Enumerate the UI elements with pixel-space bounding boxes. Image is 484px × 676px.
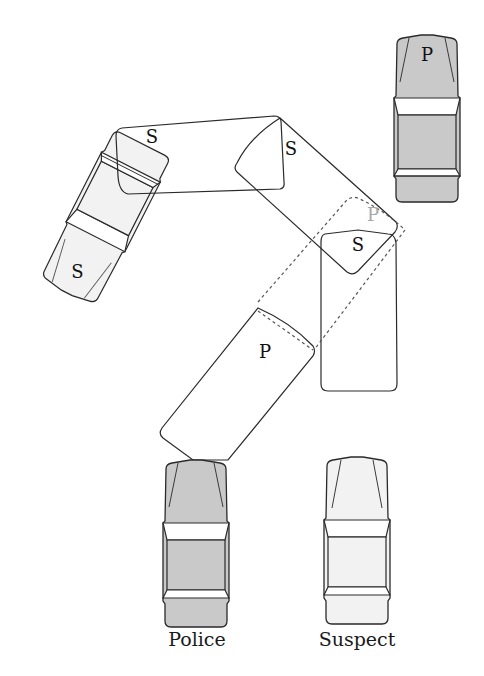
police-ghost-label: P bbox=[367, 204, 379, 225]
police-ghost-box: P bbox=[258, 197, 405, 350]
suspect-path-right: S bbox=[321, 230, 397, 391]
police-path-diagonal: P bbox=[160, 308, 314, 460]
suspect-spun-label: S bbox=[71, 261, 83, 282]
suspect-path-diagonal: S bbox=[235, 118, 397, 274]
parked-police-label: P bbox=[421, 44, 433, 65]
police-path-label: P bbox=[259, 341, 271, 362]
suspect-path-diagonal-label: S bbox=[285, 138, 297, 159]
police-car bbox=[163, 460, 229, 627]
pursuit-diagram: P S S S S P P bbox=[0, 0, 484, 676]
suspect-path-right-label: S bbox=[352, 234, 364, 255]
police-legend-label: Police bbox=[168, 628, 226, 650]
suspect-spun-car: S bbox=[37, 129, 172, 308]
suspect-path-top-label: S bbox=[146, 126, 158, 147]
parked-police-car: P bbox=[394, 35, 460, 202]
suspect-car bbox=[324, 457, 390, 624]
suspect-legend-label: Suspect bbox=[319, 628, 396, 650]
